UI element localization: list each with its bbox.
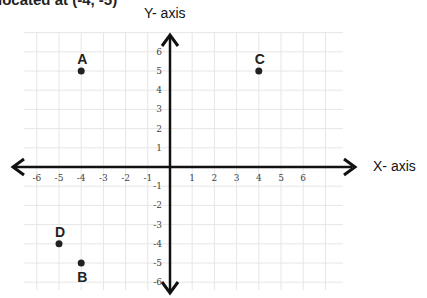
y-tick-label: -3 xyxy=(153,220,162,230)
point-label-d: D xyxy=(55,224,65,240)
y-tick-label: -5 xyxy=(153,258,162,268)
y-tick-label: -1 xyxy=(153,181,162,191)
y-tick-label: 3 xyxy=(156,104,162,114)
y-tick-label: 5 xyxy=(156,66,162,76)
coordinate-plane: -6-5-4-3-2-1123456654321-1-2-3-4-5-6ABCD xyxy=(0,0,427,298)
x-tick-label: -5 xyxy=(55,173,64,183)
x-tick-label: -1 xyxy=(143,173,152,183)
point-d xyxy=(56,240,63,247)
point-label-c: C xyxy=(255,51,265,67)
point-a xyxy=(78,68,85,75)
x-tick-label: 5 xyxy=(278,173,284,183)
x-tick-label: 6 xyxy=(300,173,306,183)
x-tick-label: -6 xyxy=(32,173,41,183)
x-tick-label: -2 xyxy=(121,173,130,183)
x-tick-label: 3 xyxy=(234,173,240,183)
point-b xyxy=(78,260,85,267)
y-tick-label: 6 xyxy=(156,47,162,57)
x-tick-label: -4 xyxy=(77,173,86,183)
x-tick-label: 4 xyxy=(256,173,262,183)
y-tick-label: -6 xyxy=(153,277,162,287)
y-tick-label: -2 xyxy=(153,200,162,210)
y-tick-label: 2 xyxy=(156,124,162,134)
point-c xyxy=(255,68,262,75)
point-label-b: B xyxy=(77,269,87,285)
x-tick-label: 1 xyxy=(189,173,195,183)
point-label-a: A xyxy=(77,51,87,67)
y-tick-label: 1 xyxy=(156,143,162,153)
x-tick-label: -3 xyxy=(99,173,108,183)
y-tick-label: 4 xyxy=(156,85,162,95)
y-tick-label: -4 xyxy=(153,239,162,249)
x-tick-label: 2 xyxy=(212,173,218,183)
